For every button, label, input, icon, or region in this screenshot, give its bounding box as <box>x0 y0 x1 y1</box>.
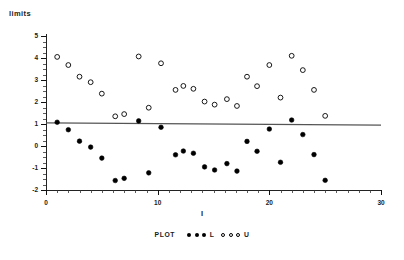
open-circle-marker-icon <box>235 104 240 109</box>
open-circle-marker-icon <box>323 113 328 118</box>
open-circle-marker-icon <box>229 233 233 237</box>
filled-circle-marker-icon <box>181 149 186 154</box>
legend-label-u: U <box>244 231 250 238</box>
open-circle-marker-icon <box>113 114 118 119</box>
filled-circle-marker-icon <box>122 176 127 181</box>
x-tick-label: 30 <box>373 199 389 206</box>
x-tick-label: 0 <box>38 199 54 206</box>
filled-circle-marker-icon <box>88 145 93 150</box>
y-tick-label: 2 <box>24 98 38 105</box>
filled-circle-marker-icon <box>323 178 328 183</box>
y-tick-label: 0 <box>24 142 38 149</box>
reference-line <box>46 123 381 125</box>
filled-circle-marker-icon <box>113 178 118 183</box>
y-tick-label: 5 <box>24 32 38 39</box>
y-tick-label: -1 <box>24 164 38 171</box>
filled-circle-marker-icon <box>55 120 60 125</box>
scatter-plot-figure: limits I -2-10123450102030 PLOT L <box>0 0 404 260</box>
open-circle-marker-icon <box>202 99 207 104</box>
open-circle-marker-icon <box>99 91 104 96</box>
filled-circle-marker-icon <box>235 169 240 174</box>
y-tick-label: 4 <box>24 54 38 61</box>
open-circle-marker-icon <box>88 80 93 85</box>
legend-markers-l <box>187 233 206 237</box>
filled-circle-marker-icon <box>100 156 105 161</box>
filled-circle-marker-icon <box>212 168 217 173</box>
open-circle-marker-icon <box>181 84 186 89</box>
filled-circle-marker-icon <box>187 233 191 237</box>
open-circle-marker-icon <box>289 53 294 58</box>
filled-circle-marker-icon <box>136 119 141 124</box>
filled-circle-marker-icon <box>202 165 207 170</box>
open-circle-marker-icon <box>191 86 196 91</box>
y-tick-label: 3 <box>24 76 38 83</box>
series-u-points <box>55 53 328 118</box>
open-circle-marker-icon <box>66 63 71 68</box>
filled-circle-marker-icon <box>159 125 164 130</box>
plot-canvas <box>0 0 404 260</box>
legend-entry-l: L <box>187 231 214 238</box>
filled-circle-marker-icon <box>255 149 260 154</box>
open-circle-marker-icon <box>55 55 60 60</box>
axis-lines <box>46 34 382 190</box>
legend-markers-u <box>221 233 240 237</box>
open-circle-marker-icon <box>212 102 217 107</box>
open-circle-marker-icon <box>136 54 141 59</box>
open-circle-marker-icon <box>159 61 164 66</box>
filled-circle-marker-icon <box>146 171 151 176</box>
filled-circle-marker-icon <box>289 118 294 123</box>
filled-circle-marker-icon <box>245 139 250 144</box>
filled-circle-marker-icon <box>202 233 206 237</box>
filled-circle-marker-icon <box>173 153 178 158</box>
filled-circle-marker-icon <box>191 151 196 156</box>
open-circle-marker-icon <box>221 233 225 237</box>
filled-circle-marker-icon <box>195 233 199 237</box>
open-circle-marker-icon <box>300 68 305 73</box>
x-tick-label: 10 <box>150 199 166 206</box>
open-circle-marker-icon <box>236 233 240 237</box>
legend-label-l: L <box>210 231 215 238</box>
filled-circle-marker-icon <box>267 127 272 132</box>
open-circle-marker-icon <box>122 112 127 117</box>
filled-circle-marker-icon <box>77 139 82 144</box>
filled-circle-marker-icon <box>225 161 230 166</box>
open-circle-marker-icon <box>245 74 250 79</box>
open-circle-marker-icon <box>225 97 230 102</box>
chart-legend: PLOT L U <box>0 231 404 238</box>
filled-circle-marker-icon <box>312 152 317 157</box>
open-circle-marker-icon <box>278 95 283 100</box>
y-tick-label: 1 <box>24 120 38 127</box>
y-tick-label: -2 <box>24 186 38 193</box>
legend-prefix-label: PLOT <box>155 231 176 238</box>
x-tick-label: 20 <box>261 199 277 206</box>
filled-circle-marker-icon <box>301 132 306 137</box>
legend-entry-u: U <box>221 231 249 238</box>
major-tick-marks <box>41 37 382 196</box>
open-circle-marker-icon <box>77 74 82 79</box>
filled-circle-marker-icon <box>66 127 71 132</box>
series-l-points <box>55 118 328 183</box>
open-circle-marker-icon <box>255 84 260 89</box>
open-circle-marker-icon <box>173 88 178 93</box>
open-circle-marker-icon <box>312 88 317 93</box>
open-circle-marker-icon <box>146 105 151 110</box>
open-circle-marker-icon <box>267 63 272 68</box>
filled-circle-marker-icon <box>278 160 283 165</box>
